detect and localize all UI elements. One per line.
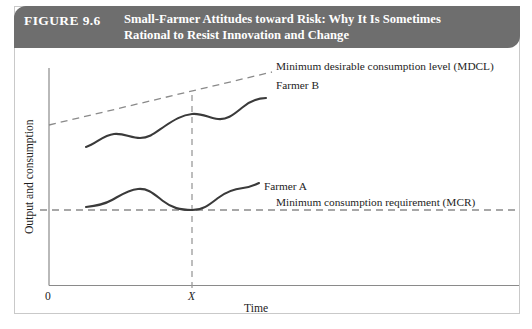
farmer-a-annotation-label: Farmer A: [264, 180, 308, 192]
y-axis-title: Output and consumption: [23, 119, 36, 234]
figure-number-label: FIGURE 9.6: [24, 13, 101, 29]
chart-svg: Minimum desirable consumption level (MDC…: [0, 48, 532, 318]
mdcl-reference-line: [49, 72, 272, 125]
x-axis-title: Time: [244, 302, 268, 315]
x-tick-origin-label: 0: [45, 290, 51, 303]
x-tick-x-label: X: [187, 290, 196, 303]
farmer-b-annotation-label: Farmer B: [276, 79, 319, 91]
figure-title: Small-Farmer Attitudes toward Risk: Why …: [124, 12, 504, 43]
figure-root: FIGURE 9.6 Small-Farmer Attitudes toward…: [0, 0, 532, 329]
mcr-annotation-label: Minimum consumption requirement (MCR): [276, 196, 475, 209]
chart-plot-area: Minimum desirable consumption level (MDC…: [0, 48, 532, 318]
farmer-b-curve: [86, 98, 266, 147]
mdcl-annotation-label: Minimum desirable consumption level (MDC…: [276, 60, 494, 73]
figure-header-bar: FIGURE 9.6 Small-Farmer Attitudes toward…: [14, 6, 520, 48]
farmer-a-curve: [86, 183, 259, 210]
